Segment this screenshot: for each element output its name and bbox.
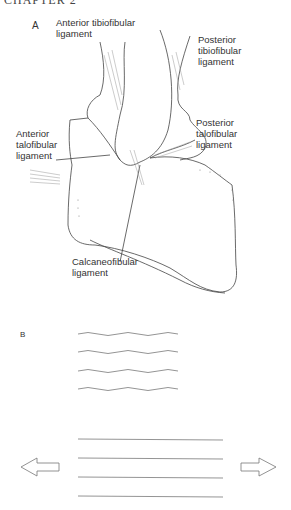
left-arrow-icon	[21, 458, 59, 476]
wavy-fibers	[78, 333, 178, 391]
right-arrow-icon	[241, 458, 276, 476]
ankle-ligament-illustration	[0, 0, 291, 510]
straight-fibers	[78, 439, 223, 497]
